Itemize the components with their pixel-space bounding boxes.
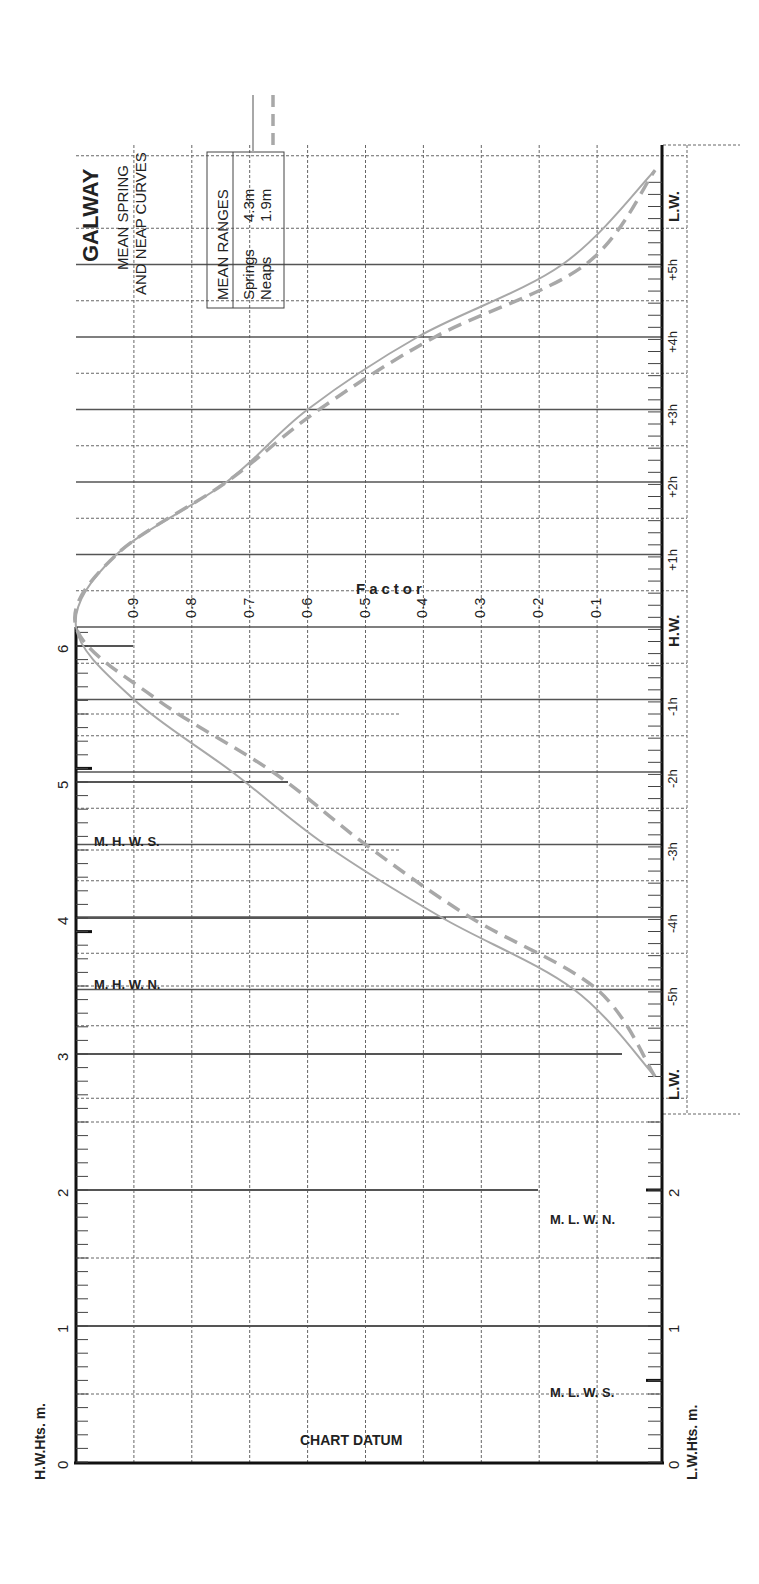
marker-mhwn: M. H. W. N.: [94, 977, 160, 992]
legend-neaps-value: 1.9m: [257, 189, 274, 222]
time-tick-label: -3h: [665, 842, 680, 861]
marker-mlws: M. L. W. S.: [550, 1385, 614, 1400]
time-tick-label: -2h: [665, 769, 680, 788]
lw-heights-axis-label: L.W.Hts. m.: [684, 1405, 700, 1480]
factor-tick-label: 0·6: [299, 598, 315, 618]
legend-springs-label: Springs: [240, 249, 257, 300]
subtitle-line1: MEAN SPRING: [114, 165, 131, 270]
time-tick-label: L.W.: [665, 191, 682, 222]
hw-height-tick-label: 4: [54, 917, 71, 925]
time-tick-label: L.W.: [665, 1069, 682, 1100]
time-tick-label: +5h: [665, 258, 680, 280]
neaps-curve: [75, 170, 655, 1076]
legend-neaps-label: Neaps: [257, 257, 274, 300]
factor-tick-label: 0·9: [125, 598, 141, 618]
height-lines: [76, 265, 663, 1327]
time-tick-label: +4h: [665, 331, 680, 353]
chart-title: GALWAY: [78, 169, 104, 262]
factor-tick-label: 0·8: [183, 598, 199, 618]
marker-mhws: M. H. W. S.: [94, 834, 160, 849]
axes: [74, 145, 664, 1464]
hw-height-tick-label: 3: [54, 1053, 71, 1061]
time-tick-label: -5h: [665, 987, 680, 1006]
factor-tick-label: 0·7: [241, 598, 257, 618]
hw-height-tick-label: 1: [54, 1325, 71, 1333]
lw-height-tick-label: 2: [665, 1189, 682, 1197]
subtitle-line2: AND NEAP CURVES: [132, 152, 149, 295]
hw-heights-axis-label: H.W.Hts. m.: [32, 1403, 48, 1480]
factor-axis-title: Factor: [356, 580, 426, 597]
hw-height-tick-label: 2: [54, 1189, 71, 1197]
lw-height-tick-label: 1: [665, 1325, 682, 1333]
time-tick-label: +3h: [665, 403, 680, 425]
factor-tick-label: 0·2: [530, 598, 546, 618]
time-tick-label: +2h: [665, 476, 680, 498]
factor-tick-label: 0·1: [588, 598, 604, 618]
factor-tick-label: 0·5: [357, 598, 373, 618]
time-tick-label: H.W.: [665, 615, 682, 648]
factor-tick-label: 0·3: [472, 598, 488, 618]
curves: [75, 170, 655, 1076]
chart-datum-label: CHART DATUM: [300, 1432, 402, 1448]
time-tick-label: -1h: [665, 697, 680, 716]
lw-height-tick-label: 0: [665, 1461, 682, 1469]
time-tick-label: -4h: [665, 914, 680, 933]
hw-height-tick-label: 5: [54, 781, 71, 789]
legend-springs-value: 4.3m: [240, 189, 257, 222]
legend-header: MEAN RANGES: [214, 189, 231, 300]
minor-ticks: [76, 182, 662, 1462]
hw-height-tick-label: 0: [54, 1461, 71, 1469]
hw-height-tick-label: 6: [54, 645, 71, 653]
time-tick-label: +1h: [665, 548, 680, 570]
factor-tick-label: 0·4: [414, 598, 430, 618]
marker-mlwn: M. L. W. N.: [550, 1212, 615, 1227]
